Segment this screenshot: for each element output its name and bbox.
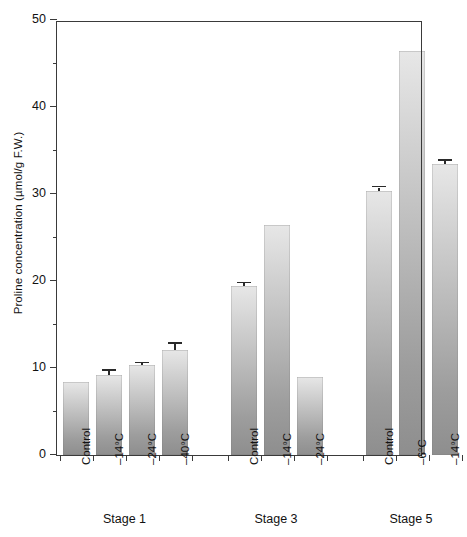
y-tick-label: 0 <box>39 447 46 462</box>
y-axis-title: Proline concentration (µmol/g F.W.) <box>12 123 24 323</box>
x-tick <box>126 455 127 461</box>
y-tick-40: 40 <box>50 106 57 107</box>
category-label: –14°C <box>113 433 125 465</box>
y-tick-label: 50 <box>32 12 46 27</box>
group-label: Stage 5 <box>351 512 467 526</box>
y-tick-label: 10 <box>32 360 46 375</box>
category-label: Control <box>383 428 395 465</box>
bar <box>366 191 392 455</box>
x-tick <box>192 455 193 461</box>
category-label: –6°C <box>416 439 428 465</box>
y-tick-minor <box>53 63 58 64</box>
category-label: Control <box>80 428 92 465</box>
x-tick <box>363 455 364 461</box>
category-label: –14°C <box>281 433 293 465</box>
x-tick <box>159 455 160 461</box>
y-tick-label: 30 <box>32 186 46 201</box>
error-bar <box>243 283 244 286</box>
y-tick-label: 40 <box>32 99 46 114</box>
y-tick-minor <box>53 237 58 238</box>
category-label: Control <box>248 428 260 465</box>
error-bar-cap <box>438 159 452 160</box>
error-bar-cap <box>168 342 182 343</box>
error-bar-cap <box>372 186 386 187</box>
y-tick-10: 10 <box>50 367 57 368</box>
y-tick-0: 0 <box>50 454 57 455</box>
x-tick <box>261 455 262 461</box>
y-tick-minor <box>53 324 58 325</box>
x-tick <box>396 455 397 461</box>
x-tick <box>462 455 463 461</box>
error-bar-cap <box>135 362 149 363</box>
bar <box>264 225 290 455</box>
error-bar <box>378 188 379 191</box>
bar <box>432 164 458 455</box>
plot-area: 01020304050 <box>56 21 422 456</box>
category-label: –14°C <box>449 433 461 465</box>
group-label: Stage 1 <box>65 512 185 526</box>
x-tick <box>294 455 295 461</box>
error-bar <box>444 161 445 164</box>
error-bar-cap <box>102 369 116 370</box>
category-label: –40°C <box>179 433 191 465</box>
bar <box>399 51 425 455</box>
y-tick-50: 50 <box>50 19 57 20</box>
x-tick <box>429 455 430 461</box>
y-tick-20: 20 <box>50 280 57 281</box>
group-label: Stage 3 <box>216 512 336 526</box>
x-tick <box>327 455 328 461</box>
error-bar <box>174 344 175 350</box>
category-label: –24°C <box>146 433 158 465</box>
error-bar-cap <box>237 282 251 283</box>
y-tick-minor <box>53 411 58 412</box>
x-tick <box>60 455 61 461</box>
y-tick-30: 30 <box>50 193 57 194</box>
y-tick-label: 20 <box>32 273 46 288</box>
error-bar <box>108 371 109 375</box>
y-tick-minor <box>53 150 58 151</box>
x-tick <box>93 455 94 461</box>
x-tick <box>228 455 229 461</box>
error-bar <box>141 363 142 365</box>
category-label: –24°C <box>314 433 326 465</box>
